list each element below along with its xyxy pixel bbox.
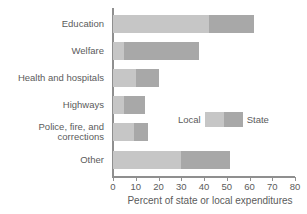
x-ticklabel-0: 0 <box>110 181 115 193</box>
bar-segment-state <box>134 123 149 141</box>
y-label-other: Other <box>80 155 104 166</box>
y-label-education: Education <box>62 19 104 30</box>
bar-segment-state <box>209 15 255 33</box>
bar-segment-local <box>113 151 181 169</box>
y-label-health-and-hospitals: Health and hospitals <box>18 73 104 84</box>
bar-segment-state <box>136 69 159 87</box>
bar-highways <box>113 96 145 114</box>
bar-segment-local <box>113 96 124 114</box>
x-axis-title: Percent of state or local expenditures <box>113 195 307 206</box>
bar-segment-local <box>113 42 124 60</box>
x-ticklabel-10: 10 <box>130 181 141 193</box>
y-label-welfare: Welfare <box>71 46 104 57</box>
bar-segment-local <box>113 69 136 87</box>
bar-segment-state <box>124 96 145 114</box>
bar-segment-local <box>113 123 134 141</box>
stacked-bar-chart: Education Welfare Health and hospitals H… <box>0 0 307 214</box>
bar-other <box>113 151 230 169</box>
bar-education <box>113 15 254 33</box>
y-axis-labels: Education Welfare Health and hospitals H… <box>0 0 108 214</box>
legend-swatch <box>205 112 243 127</box>
x-ticklabel-80: 80 <box>290 181 301 193</box>
x-ticklabel-40: 40 <box>199 181 210 193</box>
legend-label-state: State <box>247 114 269 125</box>
legend-swatch-local <box>205 112 224 127</box>
bar-health-and-hospitals <box>113 69 159 87</box>
bar-segment-state <box>181 151 230 169</box>
bar-police-fire-corrections <box>113 123 148 141</box>
x-ticklabel-20: 20 <box>153 181 164 193</box>
legend-swatch-state <box>224 112 243 127</box>
bar-welfare <box>113 42 199 60</box>
x-ticklabel-70: 70 <box>267 181 278 193</box>
y-label-police-fire-corrections-line2: corrections <box>58 132 104 143</box>
x-ticklabel-50: 50 <box>221 181 232 193</box>
legend: Local State <box>178 112 269 127</box>
bar-segment-local <box>113 15 209 33</box>
plot-area <box>113 8 295 176</box>
legend-label-local: Local <box>178 114 201 125</box>
y-label-highways: Highways <box>63 100 104 111</box>
bar-segment-state <box>124 42 199 60</box>
x-ticklabel-30: 30 <box>176 181 187 193</box>
x-ticklabel-60: 60 <box>244 181 255 193</box>
